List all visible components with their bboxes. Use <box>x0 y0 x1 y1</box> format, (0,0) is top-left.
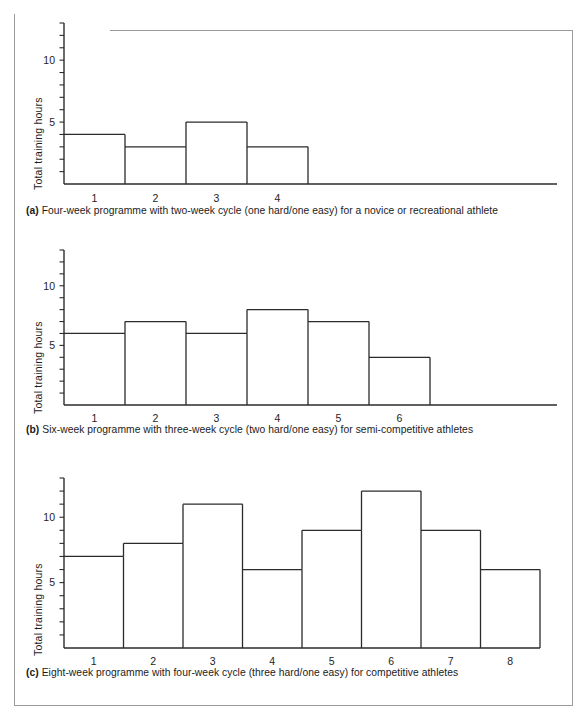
panel-caption-label-b: (b) <box>26 424 39 435</box>
chart-panel-b: Total training hours 510123456 (b) Six-w… <box>0 240 582 452</box>
chart-panel-a: Total training hours 5101234 (a) Four-we… <box>0 6 582 234</box>
y-axis-tick-label: 5 <box>49 339 55 351</box>
bar-chart-b: 510123456 <box>0 240 582 428</box>
x-axis-tick-label: 5 <box>329 655 335 667</box>
y-axis-tick-label: 10 <box>43 280 55 292</box>
x-axis-tick-label: 6 <box>397 412 403 424</box>
panel-caption-text-c: Eight-week programme with four-week cycl… <box>42 667 458 678</box>
panel-caption-label-a: (a) <box>26 205 39 216</box>
chart-panel-c: Total training hours 51012345678 (c) Eig… <box>0 458 582 706</box>
bar-chart-a: 5101234 <box>0 6 582 211</box>
x-axis-tick-label: 4 <box>275 192 281 204</box>
x-axis-tick-label: 3 <box>214 192 220 204</box>
y-axis-title-b: Total training hours <box>32 321 44 414</box>
panel-caption-a: (a) Four-week programme with two-week cy… <box>26 205 498 216</box>
y-axis-tick-label: 5 <box>49 576 55 588</box>
y-axis-tick-label: 10 <box>43 511 55 523</box>
x-axis-tick-label: 2 <box>150 655 156 667</box>
panel-caption-text-b: Six-week programme with three-week cycle… <box>42 424 473 435</box>
x-axis-tick-label: 2 <box>153 412 159 424</box>
y-axis-title-c: Total training hours <box>32 563 44 656</box>
panel-caption-text-a: Four-week programme with two-week cycle … <box>42 205 498 216</box>
x-axis-tick-label: 3 <box>210 655 216 667</box>
x-axis-tick-label: 8 <box>507 655 513 667</box>
x-axis-tick-label: 2 <box>153 192 159 204</box>
x-axis-tick-label: 6 <box>388 655 394 667</box>
x-axis-tick-label: 1 <box>92 412 98 424</box>
y-axis-tick-label: 10 <box>43 54 55 66</box>
x-axis-tick-label: 5 <box>336 412 342 424</box>
y-axis-tick-label: 5 <box>49 116 55 128</box>
panel-caption-label-c: (c) <box>26 667 39 678</box>
x-axis-tick-label: 4 <box>275 412 281 424</box>
y-axis-title-a: Total training hours <box>32 97 44 190</box>
x-axis-tick-label: 1 <box>92 192 98 204</box>
panel-caption-b: (b) Six-week programme with three-week c… <box>26 424 473 435</box>
x-axis-tick-label: 1 <box>91 655 97 667</box>
x-axis-tick-label: 7 <box>448 655 454 667</box>
x-axis-tick-label: 3 <box>214 412 220 424</box>
bar-chart-c: 51012345678 <box>0 458 582 676</box>
panel-caption-c: (c) Eight-week programme with four-week … <box>26 667 458 678</box>
x-axis-tick-label: 4 <box>269 655 275 667</box>
